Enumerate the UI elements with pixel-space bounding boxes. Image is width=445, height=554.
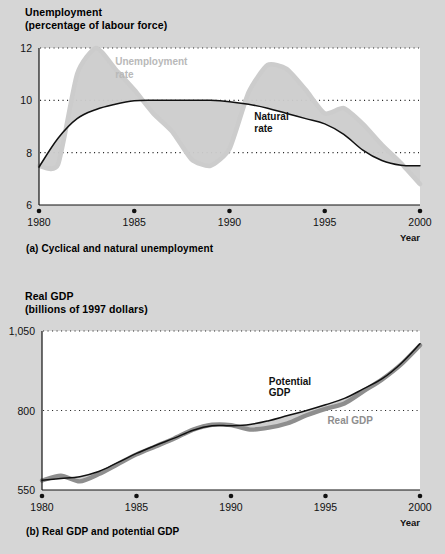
x-tick-label: 1995 [314,501,338,513]
x-tick-dot [37,209,42,214]
chart-annotation: Potential [269,376,311,387]
chart-annotation: rate [115,69,134,80]
chart-annotation: GDP [269,387,291,398]
x-tick-dot [132,209,137,214]
panel-real-gdp-potential-gdp: Real GDP (billions of 1997 dollars) 5508… [0,268,445,554]
y-tick-label: 550 [17,484,35,496]
figure-container: Unemployment (percentage of labour force… [0,0,445,554]
y-tick-label: 8 [26,147,32,159]
y-tick-label: 800 [17,405,35,417]
x-tick-label: 1985 [125,501,149,513]
real-gdp-chart-svg: 5508001,05019801985199019952000Potential… [0,268,445,554]
x-tick-dot [323,494,328,499]
x-tick-dot [229,494,234,499]
y-tick-label: 10 [20,94,32,106]
x-tick-label: 1985 [123,216,147,228]
chart-annotation: Unemployment [115,56,188,67]
x-tick-dot [418,209,423,214]
y-tick-label: 6 [26,199,32,211]
x-tick-dot [418,494,423,499]
x-tick-label: 1980 [30,501,54,513]
x-tick-dot [227,209,232,214]
chart-annotation: Natural [254,111,289,122]
y-tick-label: 1,050 [9,325,35,337]
x-tick-label: 1990 [218,216,242,228]
x-tick-label: 2000 [408,501,432,513]
x-axis-label: Year [400,517,420,528]
x-tick-label: 1980 [27,216,51,228]
unemployment-chart-svg: 68101219801985199019952000Unemploymentra… [0,0,445,268]
chart-annotation: rate [254,123,273,134]
panel-cyclical-natural-unemployment: Unemployment (percentage of labour force… [0,0,445,268]
panel-a-caption: (a) Cyclical and natural unemployment [26,243,213,254]
x-tick-dot [40,494,45,499]
x-tick-label: 2000 [408,216,432,228]
x-axis-label: Year [400,232,420,243]
y-tick-label: 12 [20,42,32,54]
x-tick-dot [134,494,139,499]
panel-b-caption: (b) Real GDP and potential GDP [26,526,179,537]
x-tick-label: 1990 [219,501,243,513]
x-tick-label: 1995 [313,216,337,228]
chart-annotation: Real GDP [327,415,373,426]
x-tick-dot [322,209,327,214]
